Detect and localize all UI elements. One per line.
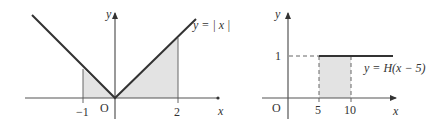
x-axis-label: x — [392, 104, 399, 118]
tick-label-ten: 10 — [344, 103, 356, 117]
origin-label: O — [100, 101, 109, 115]
tick-label-five: 5 — [315, 103, 321, 117]
shaded-area — [319, 56, 351, 98]
abs-value-graph: y y = | x | −1 O 2 x — [25, 7, 230, 119]
function-label: y = | x | — [192, 18, 230, 32]
origin-label: O — [272, 101, 281, 115]
x-axis-label: x — [217, 104, 224, 118]
function-label: y = H(x − 5) — [363, 61, 426, 75]
tick-label-one: 1 — [275, 49, 281, 63]
x-axis-end-dot — [216, 96, 219, 99]
y-axis-label: y — [274, 7, 281, 21]
y-axis-label: y — [105, 7, 112, 21]
tick-label-two: 2 — [174, 105, 180, 119]
figure-canvas: y y = | x | −1 O 2 x y 1 y = H(x − 5) O … — [0, 0, 433, 130]
tick-label-minus-one: −1 — [76, 105, 89, 119]
heaviside-graph: y 1 y = H(x − 5) O 5 10 x — [262, 7, 426, 119]
